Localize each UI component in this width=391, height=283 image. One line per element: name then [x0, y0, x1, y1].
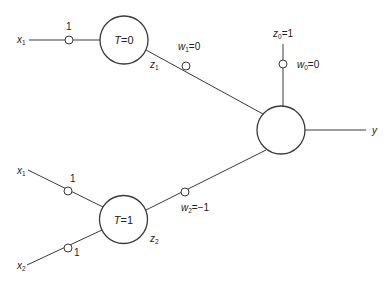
weight-label-bottom-x2: 1 [74, 247, 80, 258]
edges [27, 40, 366, 265]
synapse-bottom-x2 [64, 244, 72, 252]
hidden-bottom-threshold-label: T=1 [114, 214, 133, 226]
weight-label-bottom-x1: 1 [70, 173, 76, 184]
weight-label-top-x1: 1 [66, 21, 72, 32]
weight-label-w1: w1=0 [178, 41, 201, 53]
edge-hidden-top-to-output [146, 50, 263, 114]
input-label-bottom-x1: x1 [16, 165, 26, 177]
synapses [64, 36, 287, 252]
weight-label-w2: w2=−1 [181, 202, 210, 214]
output-label-y: y [371, 125, 378, 136]
hidden-top-output-label: z1 [149, 59, 159, 71]
neural-network-diagram: T=0 T=1 x1 x1 x2 1 1 1 w1=0 w2=−1 z0=1 w… [0, 0, 391, 283]
hidden-bottom-output-label: z2 [149, 233, 159, 245]
bias-weight-label: w0=0 [297, 59, 320, 71]
bias-input-label: z0=1 [272, 28, 293, 40]
synapse-w2 [181, 188, 189, 196]
synapse-bottom-x1 [64, 187, 72, 195]
synapse-w1 [182, 62, 190, 70]
input-label-bottom-x2: x2 [16, 260, 26, 272]
hidden-top-threshold-label: T=0 [114, 34, 133, 46]
input-label-top-x1: x1 [16, 34, 26, 46]
output-neuron [257, 106, 305, 154]
synapse-top-x1 [65, 36, 73, 44]
synapse-w0 [279, 60, 287, 68]
edge-hidden-bottom-to-output [146, 150, 266, 210]
